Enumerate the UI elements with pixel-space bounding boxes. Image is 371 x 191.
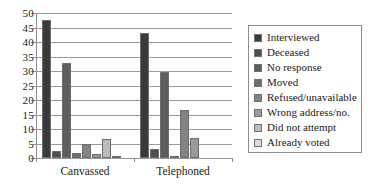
legend-swatch-icon (254, 49, 262, 57)
plot-area (36, 13, 232, 158)
legend-item-label: Moved (267, 77, 298, 88)
legend-swatch-icon (254, 64, 262, 72)
bar (170, 156, 179, 158)
bar (140, 33, 149, 158)
legend-item-label: Did not attempt (267, 122, 336, 133)
bar (180, 110, 189, 158)
bar (102, 139, 111, 158)
y-tick-label: 15 (6, 110, 34, 121)
y-tick-label: 20 (6, 95, 34, 106)
bar (190, 138, 199, 158)
legend-item-label: Refused/unavailable (267, 92, 357, 103)
x-axis-label-canvassed: Canvassed (36, 165, 134, 177)
x-tick-mark (134, 158, 135, 162)
x-axis-label-telephoned: Telephoned (134, 165, 232, 177)
legend-swatch-icon (254, 34, 262, 42)
chart-legend: InterviewedDeceasedNo responseMovedRefus… (248, 25, 362, 153)
legend-swatch-icon (254, 79, 262, 87)
bar (82, 144, 91, 158)
legend-swatch-icon (254, 94, 262, 102)
x-tick-mark (36, 158, 37, 162)
bar (42, 20, 51, 158)
bar (150, 149, 159, 158)
legend-item-refused-unavailable[interactable]: Refused/unavailable (254, 90, 361, 105)
y-tick-label: 35 (6, 52, 34, 63)
y-tick-label: 45 (6, 23, 34, 34)
legend-item-no-response[interactable]: No response (254, 60, 361, 75)
legend-item-did-not-attempt[interactable]: Did not attempt (254, 120, 361, 135)
legend-item-label: Wrong address/no. (267, 107, 350, 118)
y-tick-label: 25 (6, 81, 34, 92)
legend-item-moved[interactable]: Moved (254, 75, 361, 90)
bar (112, 156, 121, 158)
y-tick-label: 40 (6, 37, 34, 48)
legend-item-label: Interviewed (267, 32, 320, 43)
legend-item-deceased[interactable]: Deceased (254, 45, 361, 60)
legend-item-wrong-address-no[interactable]: Wrong address/no. (254, 105, 361, 120)
legend-item-label: Deceased (267, 47, 309, 58)
bar (160, 72, 169, 158)
bar-group (140, 13, 220, 158)
y-tick-label: 50 (6, 8, 34, 19)
legend-swatch-icon (254, 139, 262, 147)
y-tick-label: 5 (6, 139, 34, 150)
y-tick-label: 10 (6, 124, 34, 135)
bar-chart: 05101520253035404550 CanvassedTelephoned… (0, 0, 371, 191)
legend-swatch-icon (254, 124, 262, 132)
legend-item-interviewed[interactable]: Interviewed (254, 30, 361, 45)
legend-item-label: No response (267, 62, 322, 73)
bar (52, 151, 61, 158)
y-tick-label: 0 (6, 153, 34, 164)
bar (92, 154, 101, 158)
bar-group (42, 13, 122, 158)
bar (72, 153, 81, 159)
x-tick-mark (232, 158, 233, 162)
legend-item-already-voted[interactable]: Already voted (254, 135, 361, 150)
legend-swatch-icon (254, 109, 262, 117)
y-tick-label: 30 (6, 66, 34, 77)
legend-item-label: Already voted (267, 137, 330, 148)
bar (62, 63, 71, 158)
